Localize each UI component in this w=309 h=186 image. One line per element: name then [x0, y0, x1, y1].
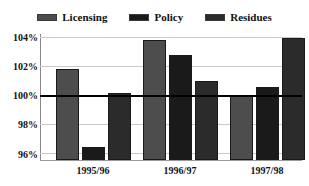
plot-area: [40, 34, 302, 160]
bar-residues-1995-96: [108, 93, 131, 160]
legend-swatch-residues-icon: [205, 14, 225, 21]
legend-label-licensing: Licensing: [62, 12, 107, 23]
legend-entry-policy: Policy: [129, 12, 183, 23]
legend-label-policy: Policy: [154, 12, 183, 23]
y-tick-104: 104%: [2, 33, 38, 43]
gridline-100-baseline: [40, 95, 302, 97]
y-axis-labels: 104% 102% 100% 98% 96%: [0, 0, 38, 186]
legend-entry-licensing: Licensing: [37, 12, 107, 23]
bar-licensing-1997-98: [230, 95, 253, 160]
y-tick-102: 102%: [2, 62, 38, 72]
chart-legend: Licensing Policy Residues: [0, 9, 309, 25]
bar-policy-1995-96: [82, 147, 105, 160]
bar-residues-1996-97: [195, 81, 218, 160]
x-axis-line: [40, 160, 302, 161]
bar-licensing-1996-97: [143, 40, 166, 160]
legend-swatch-policy-icon: [129, 14, 149, 21]
x-tick-1995-96: 1995/96: [50, 165, 136, 177]
legend-entry-residues: Residues: [205, 12, 272, 23]
x-tick-1996-97: 1996/97: [137, 165, 223, 177]
legend-swatch-licensing-icon: [37, 14, 57, 21]
legend-label-residues: Residues: [230, 12, 272, 23]
bar-policy-1997-98: [256, 87, 279, 160]
y-tick-96: 96%: [2, 150, 38, 160]
y-tick-100: 100%: [2, 91, 38, 101]
gridline-104: [40, 37, 302, 38]
y-tick-98: 98%: [2, 120, 38, 130]
bar-residues-1997-98: [282, 38, 305, 160]
bar-policy-1996-97: [169, 55, 192, 160]
bar-licensing-1995-96: [56, 69, 79, 160]
x-axis-labels: 1995/96 1996/97 1997/98: [40, 165, 302, 183]
x-tick-1997-98: 1997/98: [224, 165, 309, 177]
bar-chart: Licensing Policy Residues 104% 102% 100%…: [0, 0, 309, 186]
